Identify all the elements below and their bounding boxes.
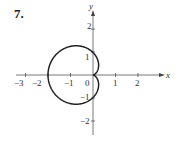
cardioid-plot: −3 −2 −1 0 1 2 x 2 1 −1 −2 y: [0, 0, 176, 141]
x-tick-label: 0: [85, 78, 90, 88]
x-axis-label: x: [165, 70, 170, 80]
x-tick-label: 2: [135, 78, 140, 88]
x-tick-label: −1: [64, 78, 74, 88]
y-tick-label: 2: [87, 21, 92, 31]
y-tick-label: 1: [85, 52, 90, 62]
x-tick-label: 1: [113, 78, 118, 88]
x-axis-arrow-icon: [159, 73, 165, 77]
x-tick-label: −2: [32, 78, 42, 88]
y-tick-label: −2: [80, 116, 90, 126]
y-axis-label: y: [88, 1, 93, 11]
x-tick-label: −3: [14, 78, 24, 88]
